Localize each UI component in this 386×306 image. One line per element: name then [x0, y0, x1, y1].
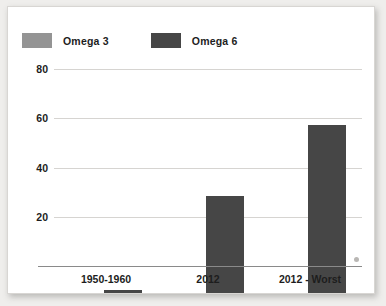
- bar-omega3-2012: [166, 293, 204, 294]
- xtick-label-1950-1960: 1950-1960: [81, 273, 131, 285]
- bar-group-1950-1960: [60, 7, 152, 294]
- scan-artifact-speck: [354, 257, 359, 262]
- chart-card: 80 60 40 20 1950-1960 2012 2012 - Worst: [7, 6, 375, 294]
- bar-omega6-2012-worst: [308, 125, 346, 294]
- ytick-label-40: 40: [20, 162, 48, 174]
- bar-omega3-2012-worst: [268, 293, 306, 294]
- bar-omega3-1950-1960: [64, 293, 102, 294]
- ytick-label-20: 20: [20, 211, 48, 223]
- legend-label-omega3: Omega 3: [63, 35, 109, 47]
- chart-plot-area: 80 60 40 20 1950-1960 2012 2012 - Worst: [8, 7, 375, 294]
- bar-group-2012-worst: [264, 7, 356, 294]
- bars-layer: [54, 7, 362, 294]
- bar-group-2012: [162, 7, 254, 294]
- legend-entry-omega6: Omega 6: [151, 33, 238, 48]
- xtick-label-2012-worst: 2012 - Worst: [279, 273, 341, 285]
- bar-omega6-1950-1960: [104, 290, 142, 294]
- ytick-label-80: 80: [20, 63, 48, 75]
- legend-label-omega6: Omega 6: [192, 35, 238, 47]
- legend-entry-omega3: Omega 3: [22, 33, 109, 48]
- x-axis-baseline: [38, 266, 362, 267]
- chart-legend: Omega 3 Omega 6: [22, 33, 238, 48]
- legend-swatch-omega3-icon: [22, 33, 52, 48]
- ytick-label-60: 60: [20, 112, 48, 124]
- xtick-label-2012: 2012: [196, 273, 219, 285]
- legend-swatch-omega6-icon: [151, 33, 181, 48]
